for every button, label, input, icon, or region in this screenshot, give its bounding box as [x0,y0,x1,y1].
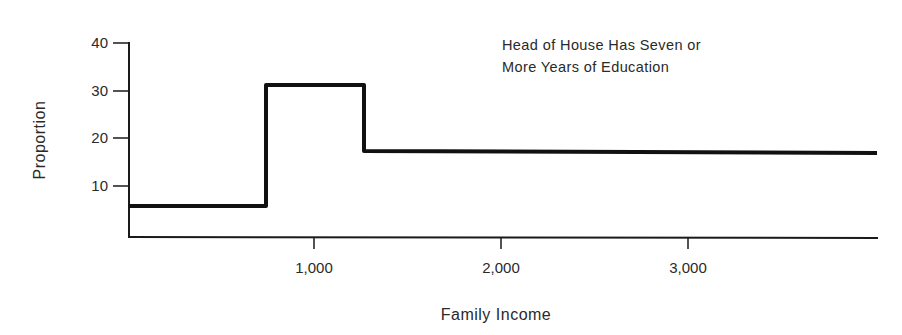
y-tick-label-40: 40 [91,34,108,51]
y-ticks: 40 30 20 10 [91,34,129,194]
y-tick-label-30: 30 [91,82,108,99]
y-axis-title: Proportion [31,101,48,180]
x-tick-label-2000: 2,000 [482,259,520,276]
x-tick-label-3000: 3,000 [669,259,707,276]
x-ticks: 1,000 2,000 3,000 [295,237,707,276]
x-axis-title: Family Income [441,306,552,323]
step-series-line [129,85,877,206]
x-axis [128,237,878,238]
step-chart: 40 30 20 10 1,000 2,000 3,000 Proportion… [0,0,902,335]
annotation-line-1: Head of House Has Seven or [502,37,701,53]
y-tick-label-10: 10 [91,177,108,194]
y-tick-label-20: 20 [91,129,108,146]
x-tick-label-1000: 1,000 [295,259,333,276]
annotation-line-2: More Years of Education [502,59,669,75]
